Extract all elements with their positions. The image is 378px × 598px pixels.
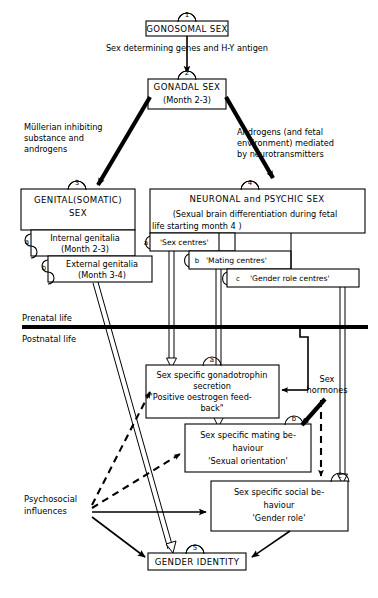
centre-tag-c: c [236,275,240,283]
svg-text:influences: influences [24,506,67,516]
substep-internal-genitalia[interactable]: a Internal genitalia (Month 2-3) [25,230,135,258]
node-label-genital: GENITAL(SOMATIC) [34,195,122,205]
node-number-2: 2 [185,69,189,77]
node-sub1-neuronal: (Sexual brain differentiation during fet… [173,209,338,219]
outcome-a-line3: "Positive oestrogen feed- [149,392,252,402]
node-label-neuronal: NEURONAL and PSYCHIC SEX [189,194,324,204]
centre-gender-role-centres[interactable]: c 'Gender role centres' [223,269,359,287]
substep-line1-external: External genitalia [66,259,138,269]
centre-tag-b: b [195,257,200,265]
label-prenatal-life: Prenatal life [22,313,72,323]
substep-tag-a: a [25,238,29,246]
node-number-4: 4 [248,179,253,187]
edge-label-sex-hormones: Sex hormones [307,374,348,395]
edge-gonadal-to-genital [98,97,150,185]
svg-text:Androgens (and fetal: Androgens (and fetal [237,127,323,137]
edge-label-mullerian: Müllerian inhibiting substance and andro… [24,122,103,154]
edge-hormones-riser [300,327,308,390]
node-sub-gonadal: (Month 2-3) [163,95,211,105]
edge-psychosocial-to-identity [92,517,145,557]
node-number-5: 5 [193,544,197,552]
node-neuronal-psychic-sex[interactable]: 4 NEURONAL and PSYCHIC SEX (Sexual brain… [150,179,365,233]
node-label-gonosomal: GONOSOMAL SEX [146,24,228,34]
outcome-c-line2: haviour [264,500,296,510]
node-label-gonadal: GONADAL SEX [154,82,221,92]
svg-text:hormones: hormones [307,385,348,395]
substep-external-genitalia[interactable]: b External genitalia (Month 3-4) [42,256,152,284]
centre-tag-a: a [144,239,148,247]
outcome-b-line3: 'Sexual orientation' [208,456,287,466]
outcome-c-line3: 'Gender role' [253,513,306,523]
outcome-box-mating-behaviour[interactable]: b Sex specific mating be- haviour 'Sexua… [185,415,311,472]
edge-label-androgens: Androgens (and fetal environment) mediat… [237,127,334,159]
outcome-tag-a: a [210,356,214,364]
substep-tag-b: b [42,264,47,272]
centre-sex-centres[interactable]: a 'Sex centres' [144,233,235,251]
node-label-genital-2: SEX [69,208,87,218]
node-label-gender-identity: GENDER IDENTITY [155,557,240,567]
node-gonadal-sex[interactable]: 2 GONADAL SEX (Month 2-3) [148,69,226,109]
outcome-tag-b: b [292,415,297,423]
edge-psychosocial-to-gonadotrophin [92,392,150,505]
svg-text:Psychosocial: Psychosocial [24,494,77,504]
node-number-3: 3 [75,179,79,187]
outcome-tag-c: c [338,472,342,480]
node-gender-identity[interactable]: 5 GENDER IDENTITY [148,544,246,570]
centre-label-mating-centres: 'Mating centres' [206,256,267,265]
svg-text:by neurotransmitters: by neurotransmitters [237,149,324,159]
substep-line1-internal: Internal genitalia [50,233,120,243]
outcome-a-line4: back" [200,403,223,413]
label-psychosocial-influences: Psychosocial influences [24,494,77,516]
svg-text:environment) mediated: environment) mediated [237,138,334,148]
outcome-box-social-behaviour[interactable]: c Sex specific social be- haviour 'Gende… [211,472,349,531]
edge-label-sex-determining-genes: Sex determining genes and H-Y antigen [106,43,268,53]
svg-text:Müllerian inhibiting: Müllerian inhibiting [24,122,103,132]
outcome-a-line1: Sex specific gonadotrophin [157,370,268,380]
node-gonosomal-sex[interactable]: 1 GONOSOMAL SEX [146,11,228,36]
substep-line2-internal: (Month 2-3) [61,244,109,254]
label-postnatal-life: Postnatal life [22,334,76,344]
node-number-1: 1 [185,11,189,19]
substep-line2-external: (Month 3-4) [78,270,126,280]
outcome-box-gonadotrophin[interactable]: a Sex specific gonadotrophin secretion "… [146,356,279,418]
outcome-c-line1: Sex specific social be- [234,487,324,497]
diagram-canvas: 1 GONOSOMAL SEX Sex determining genes an… [0,0,378,598]
flowchart-svg: 1 GONOSOMAL SEX Sex determining genes an… [0,0,378,598]
centre-mating-centres[interactable]: b 'Mating centres' [185,251,291,269]
outcome-b-line2: haviour [233,443,265,453]
centre-label-gender-role-centres: 'Gender role centres' [250,274,330,283]
svg-text:androgens: androgens [24,144,67,154]
svg-text:substance and: substance and [24,133,84,143]
node-sub2-neuronal: life starting month 4 ) [152,221,242,231]
svg-text:Sex: Sex [320,374,335,384]
edge-social-to-identity [252,531,290,557]
node-genital-somatic-sex[interactable]: 3 GENITAL(SOMATIC) SEX [21,179,135,230]
centre-label-sex-centres: 'Sex centres' [160,238,209,247]
outcome-a-line2: secretion [193,381,231,391]
outcome-b-line1: Sex specific mating be- [200,430,296,440]
